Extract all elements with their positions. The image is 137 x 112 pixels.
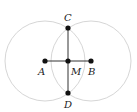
point-b	[88, 58, 93, 63]
point-m	[65, 58, 70, 63]
geometry-diagram: A M B C D	[0, 0, 137, 112]
label-a: A	[37, 66, 45, 77]
label-c: C	[64, 12, 72, 23]
point-a	[42, 58, 47, 63]
label-d: D	[63, 99, 72, 110]
label-m: M	[70, 66, 82, 77]
point-c	[65, 25, 70, 30]
point-d	[65, 90, 70, 95]
label-b: B	[87, 66, 95, 77]
